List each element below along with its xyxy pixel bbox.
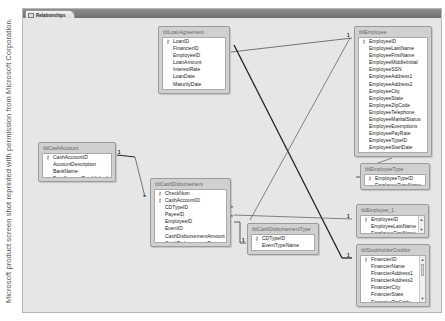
field-item[interactable]: ⚷CashAccountID <box>155 197 226 204</box>
many-marker: ∞ <box>143 193 146 198</box>
field-item[interactable]: FinancierID <box>163 45 225 52</box>
field-item[interactable]: EmployeeTelephone <box>359 109 427 116</box>
table-title[interactable]: tblEmployee <box>355 27 431 36</box>
field-item[interactable]: EmployeeExemptions <box>359 123 427 130</box>
primary-key-icon: ⚷ <box>368 175 372 182</box>
field-item[interactable]: EmployeeSSN <box>359 66 427 73</box>
scroll-up-icon[interactable]: ▲ <box>419 217 424 222</box>
field-item[interactable]: EventTypeName <box>252 242 314 249</box>
table-cash-disbursement-type[interactable]: tblCashDisbursementType ⚷CDTypeID EventT… <box>247 223 319 255</box>
field-item[interactable]: AccountDescription <box>43 161 111 168</box>
table-title[interactable]: tblStockholderCreditor <box>357 245 429 254</box>
field-list: ⚷CheckNum ⚷CashAccountID CDTypeID PayeeI… <box>154 189 227 243</box>
field-item[interactable]: FinancierZipCode <box>361 299 425 303</box>
one-marker: 1 <box>242 238 245 243</box>
one-marker: 1 <box>347 253 350 258</box>
scroll-up-icon[interactable]: ▲ <box>420 257 425 262</box>
primary-key-icon: ⚷ <box>255 235 259 242</box>
field-item[interactable]: EmployeeAddress2 <box>359 81 427 88</box>
field-item[interactable]: PaymentsPerYear <box>163 88 225 90</box>
field-item[interactable]: CDTypeID <box>155 204 226 211</box>
field-list: ⚷EmployeeTypeID EmployeeTypeName <box>364 174 426 186</box>
field-item[interactable]: DateAccountEstablished <box>43 175 111 178</box>
field-item[interactable]: CashDisbursementDate <box>155 240 226 243</box>
primary-key-icon: ⚷ <box>364 256 368 263</box>
primary-key-icon: ⚷ <box>166 38 170 45</box>
field-item[interactable]: InterestRate <box>163 66 225 73</box>
field-item[interactable]: EmployeeFirstName <box>359 52 427 59</box>
field-item[interactable]: EmployeeTypeID <box>359 137 427 144</box>
field-list: ⚷EmployeeID EmployeeLastName EmployeeFir… <box>360 215 425 234</box>
field-item[interactable]: CashDisbursementAmount <box>155 233 226 240</box>
field-item[interactable]: EmployeeMaritalStatus <box>359 116 427 123</box>
table-title[interactable]: tblCashDisbursementType <box>248 224 318 233</box>
primary-key-icon: ⚷ <box>362 38 366 45</box>
scroll-down-icon[interactable]: ▼ <box>420 296 425 301</box>
field-item[interactable]: PayeeID <box>155 211 226 218</box>
field-item[interactable]: ⚷EmployeeTypeID <box>365 175 425 182</box>
table-employee-type[interactable]: tblEmployeeType ⚷EmployeeTypeID Employee… <box>360 163 430 190</box>
table-title[interactable]: tblCashDisbursement <box>151 179 230 188</box>
field-item[interactable]: ⚷CheckNum <box>155 190 226 197</box>
one-marker: 1 <box>347 33 350 38</box>
field-item[interactable]: EventID <box>155 225 226 232</box>
field-item[interactable]: ⚷LoanID <box>163 38 225 45</box>
field-item[interactable]: FinancierState <box>361 291 425 298</box>
field-item[interactable]: LoanAmount <box>163 59 225 66</box>
field-item[interactable]: ⚷EmployeeID <box>361 216 424 223</box>
field-item[interactable]: EmployeePayRate <box>359 130 427 137</box>
field-item[interactable]: FinancierAddress2 <box>361 277 425 284</box>
primary-key-icon: ⚷ <box>158 197 162 204</box>
field-item[interactable]: PayeeTypeName <box>252 249 314 251</box>
field-item[interactable]: EmployeeStartDate <box>359 144 427 151</box>
field-list: ⚷FinancierID FinancierName FinancierAddr… <box>360 255 426 303</box>
table-employee-1[interactable]: tblEmployee_1 ⚷EmployeeID EmployeeLastNa… <box>356 204 429 238</box>
field-item[interactable]: ⚷FinancierID <box>361 256 425 263</box>
one-marker: 1 <box>118 150 121 155</box>
field-item[interactable]: ⚷CashAccountID <box>43 154 111 161</box>
field-item[interactable]: EmployeeCity <box>359 88 427 95</box>
table-cash-disbursement[interactable]: tblCashDisbursement ⚷CheckNum ⚷CashAccou… <box>150 178 231 247</box>
field-item[interactable]: ⚷CDTypeID <box>252 235 314 242</box>
scroll-thumb[interactable] <box>421 264 424 276</box>
field-item[interactable]: FinancierCity <box>361 284 425 291</box>
field-item[interactable]: EmployeeTypeName <box>365 182 425 186</box>
table-title[interactable]: tblEmployeeType <box>361 164 429 173</box>
field-item[interactable]: EmployeeID <box>155 218 226 225</box>
field-scrollbar[interactable]: ▲ ▼ <box>419 256 425 302</box>
table-stockholder-creditor[interactable]: tblStockholderCreditor ⚷FinancierID Fina… <box>356 244 430 307</box>
table-title[interactable]: tblCashAccount <box>39 143 115 152</box>
field-item[interactable]: LoanDate <box>163 73 225 80</box>
field-item[interactable]: BankName <box>43 168 111 175</box>
field-list: ⚷EmployeeID EmployeeLastName EmployeeFir… <box>358 37 428 153</box>
field-item[interactable]: EmployeeAddress1 <box>359 73 427 80</box>
field-item[interactable]: EmployeeMiddleInitial <box>359 59 427 66</box>
table-title[interactable]: tblLoanAgreement <box>159 27 229 36</box>
table-cash-account[interactable]: tblCashAccount ⚷CashAccountID AccountDes… <box>38 142 116 182</box>
table-title[interactable]: tblEmployee_1 <box>357 205 428 214</box>
field-item[interactable]: EmployeeLastName <box>361 223 424 230</box>
field-item[interactable]: EmployeeID <box>163 52 225 59</box>
field-item[interactable]: EmployeeZipCode <box>359 102 427 109</box>
field-item[interactable]: EmployeeLastName <box>359 45 427 52</box>
primary-key-icon: ⚷ <box>158 190 162 197</box>
primary-key-icon: ⚷ <box>364 216 368 223</box>
field-item[interactable]: MaturityDate <box>163 81 225 88</box>
scroll-down-icon[interactable]: ▼ <box>419 227 424 232</box>
field-list: ⚷CDTypeID EventTypeName PayeeTypeName <box>251 234 315 251</box>
field-scrollbar[interactable]: ▲ ▼ <box>418 216 424 233</box>
field-item[interactable]: EmployeeFirstName <box>361 230 424 234</box>
field-item[interactable]: FinancierName <box>361 263 425 270</box>
field-item[interactable]: FinancierAddress1 <box>361 270 425 277</box>
field-list: ⚷LoanID FinancierID EmployeeID LoanAmoun… <box>162 37 226 90</box>
field-list: ⚷CashAccountID AccountDescription BankNa… <box>42 153 112 178</box>
field-item[interactable]: EmployeeState <box>359 95 427 102</box>
primary-key-icon: ⚷ <box>46 154 50 161</box>
table-employee[interactable]: tblEmployee ⚷EmployeeID EmployeeLastName… <box>354 26 432 157</box>
field-item[interactable]: ⚷EmployeeID <box>359 38 427 45</box>
table-loan-agreement[interactable]: tblLoanAgreement ⚷LoanID FinancierID Emp… <box>158 26 230 94</box>
one-marker: 1 <box>347 214 350 219</box>
